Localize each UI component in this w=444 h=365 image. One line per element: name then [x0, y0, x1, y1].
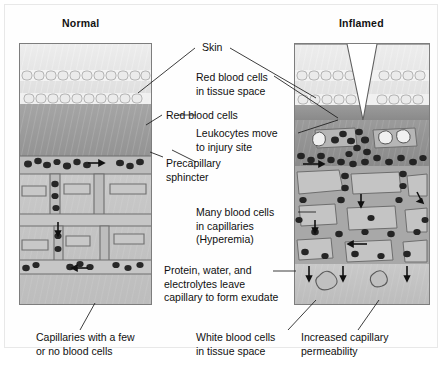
leader-lines — [0, 0, 444, 365]
label-hyperemia: Many blood cells in capillaries (Hyperem… — [196, 206, 274, 247]
label-precapillary-sphincter: Precapillary sphincter — [166, 157, 221, 184]
label-skin: Skin — [202, 41, 222, 55]
label-increased-permeability: Increased capillary permeability — [301, 331, 389, 358]
inflammation-diagram: Normal Inflamed — [0, 0, 444, 365]
label-wbc-tissue-space: White blood cells in tissue space — [196, 331, 275, 358]
label-leukocytes-move: Leukocytes move to injury site — [196, 127, 278, 154]
label-few-or-no-blood-cells: Capillaries with a few or no blood cells — [36, 331, 135, 358]
label-rbc-tissue-space: Red blood cells in tissue space — [196, 71, 268, 98]
label-exudate: Protein, water, and electrolytes leave c… — [164, 264, 278, 305]
label-red-blood-cells: Red blood cells — [166, 109, 238, 123]
